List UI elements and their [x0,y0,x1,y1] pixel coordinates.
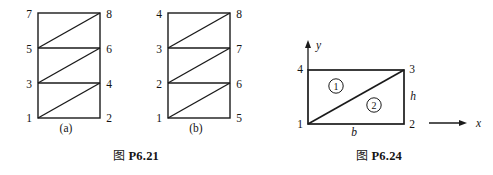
figure-a-diagonal-band3 [38,13,100,48]
figure-b-node-label-left-0: 4 [156,8,162,20]
figure-a-node-label-left-3: 1 [26,112,32,124]
figure-b: 4 3 2 1 8 7 6 5 [156,10,252,122]
figure-page: 7 5 3 1 8 6 4 2 (a) 4 3 2 1 [0,0,493,175]
caption-p624-cjk: 图 [356,149,368,163]
figure-c-height-dimension-label: h [410,90,416,102]
figure-a-node-label-right-2: 4 [106,78,112,90]
figure-a-node-label-left-0: 7 [26,8,32,20]
caption-p621-cjk: 图 [113,149,125,163]
figure-a-diagonal-band2 [38,48,100,83]
figure-b-diagonal-band1 [168,83,230,118]
figure-c-region-1-label: 1 [334,81,339,92]
figure-b-subcaption: (b) [174,122,218,134]
figure-a-node-label-right-0: 8 [106,8,112,20]
figure-c-diagonal [308,70,404,124]
figure-b-node-label-right-2: 6 [236,78,242,90]
figure-b-node-label-left-1: 3 [156,43,162,55]
figure-c: y 4 3 1 2 1 2 b h x [296,38,486,138]
figure-b-node-label-left-2: 2 [156,78,162,90]
y-axis-arrowhead-icon [305,40,311,48]
figure-c-corner-label-bottom-right: 2 [409,118,415,130]
caption-p624-identifier: P6.24 [372,149,403,163]
caption-p621-identifier: P6.21 [129,149,160,163]
figure-b-diagonal-band2 [168,48,230,83]
figure-c-corner-label-top-right: 3 [409,63,415,75]
figure-c-region-2-label: 2 [372,100,377,111]
figure-c-base-dimension-label: b [351,126,357,138]
x-axis-label: x [475,117,482,129]
figure-b-node-label-right-3: 5 [236,112,242,124]
figure-a-node-label-left-1: 5 [26,43,32,55]
figure-a-subcaption: (a) [44,122,88,134]
figure-a-diagonal-band1 [38,83,100,118]
figure-c-corner-label-bottom-left: 1 [297,118,303,130]
figure-b-drawing: 4 3 2 1 8 7 6 5 [156,10,252,122]
figure-a: 7 5 3 1 8 6 4 2 [26,10,122,122]
figure-a-drawing: 7 5 3 1 8 6 4 2 [26,10,122,122]
figure-a-node-label-left-2: 3 [26,78,32,90]
figure-b-node-label-right-0: 8 [236,8,242,20]
figure-c-corner-label-top-left: 4 [297,63,303,75]
figure-c-drawing: y 4 3 1 2 1 2 b h x [296,38,486,138]
figure-a-node-label-right-3: 2 [106,112,112,124]
figure-a-node-label-right-1: 6 [106,43,112,55]
caption-p624: 图 P6.24 [356,146,402,164]
figure-b-diagonal-band3 [168,13,230,48]
figure-b-node-label-right-1: 7 [236,43,242,55]
figure-b-node-label-left-3: 1 [156,112,162,124]
x-axis-arrowhead-icon [459,120,467,126]
caption-p621: 图 P6.21 [113,146,159,164]
y-axis-label: y [315,39,322,52]
